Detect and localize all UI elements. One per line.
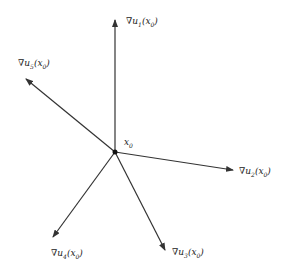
gradient-vectors-diagram: x0 ∇u1(x0)∇u5(x0)∇u2(x0)∇u4(x0)∇u3(x0): [0, 0, 284, 272]
vector-arrow-u4: [53, 152, 115, 237]
vector-label-u2: ∇u2(x0): [239, 166, 271, 178]
vector-label-u3: ∇u3(x0): [172, 247, 204, 259]
center-point: [113, 150, 118, 155]
vector-label-u5: ∇u5(x0): [18, 58, 50, 70]
vector-arrow-u5: [26, 79, 115, 152]
center-label: x0: [124, 137, 133, 149]
vector-arrow-u2: [115, 152, 233, 170]
vector-arrow-u3: [115, 152, 165, 250]
vector-label-u1: ∇u1(x0): [126, 16, 158, 28]
vector-label-u4: ∇u4(x0): [51, 248, 83, 260]
